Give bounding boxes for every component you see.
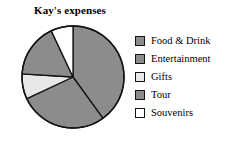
legend-swatch-entertainment (135, 54, 145, 64)
chart-legend: Food & Drink Entertainment Gifts Tour So… (135, 33, 235, 123)
legend-swatch-gifts (135, 72, 145, 82)
legend-item-tour[interactable]: Tour (135, 87, 235, 102)
legend-swatch-food-drink (135, 36, 145, 46)
legend-swatch-souvenirs (135, 108, 145, 118)
chart-title: Kay's expenses (0, 4, 140, 17)
pie-chart-figure: Kay's expenses Food & Drink Entertainmen… (0, 0, 235, 144)
legend-label-tour: Tour (151, 89, 171, 101)
legend-swatch-tour (135, 90, 145, 100)
pie-plot-area (0, 18, 140, 140)
legend-label-food-drink: Food & Drink (151, 35, 211, 47)
legend-label-entertainment: Entertainment (151, 53, 210, 65)
legend-item-souvenirs[interactable]: Souvenirs (135, 105, 235, 120)
pie-svg (0, 18, 140, 140)
legend-item-entertainment[interactable]: Entertainment (135, 51, 235, 66)
legend-label-gifts: Gifts (151, 71, 172, 83)
legend-item-food-drink[interactable]: Food & Drink (135, 33, 235, 48)
legend-item-gifts[interactable]: Gifts (135, 69, 235, 84)
legend-label-souvenirs: Souvenirs (151, 107, 193, 119)
